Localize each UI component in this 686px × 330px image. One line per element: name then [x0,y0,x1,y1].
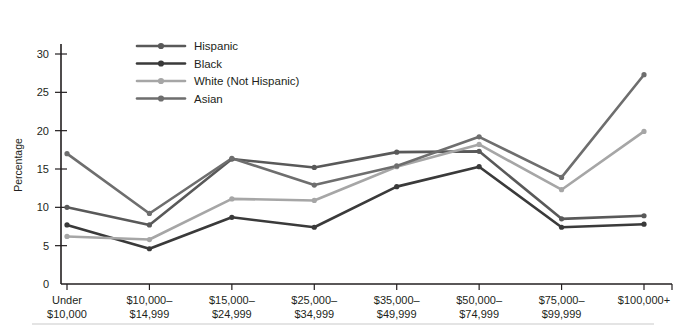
x-category-label: $10,000 [47,308,87,320]
y-tick-label: 10 [37,201,49,213]
data-point [147,237,152,242]
data-point [559,216,564,221]
legend-label: Black [194,58,222,70]
data-point [64,151,69,156]
line-chart: 051015202530 Percentage Under$10,000$10,… [0,0,686,330]
y-axis-title: Percentage [12,138,24,192]
x-axis-group: Under$10,000$10,000–$14,999$15,000–$24,9… [47,284,672,320]
y-axis-tick-labels: 051015202530 [37,48,49,290]
data-point [147,246,152,251]
x-category-label: $34,999 [294,308,334,320]
data-point [229,156,234,161]
legend-item-hispanic: Hispanic [137,40,238,52]
y-tick-label: 0 [43,278,49,290]
data-point [559,187,564,192]
data-point [641,129,646,134]
data-point [641,72,646,77]
data-point [394,163,399,168]
x-axis-category-labels: Under$10,000$10,000–$14,999$15,000–$24,9… [47,294,670,320]
legend-item-asian: Asian [137,93,223,105]
x-axis-ticks [67,284,672,290]
data-point [147,222,152,227]
data-point [559,175,564,180]
y-tick-label: 30 [37,48,49,60]
legend-item-white-not-hispanic: White (Not Hispanic) [137,75,300,87]
x-category-label: $14,999 [130,308,170,320]
data-point [477,164,482,169]
legend-swatch-marker [158,60,164,66]
data-point [64,205,69,210]
legend-swatch-marker [158,95,164,101]
y-axis-group: 051015202530 Percentage [12,44,67,290]
x-category-label: Under [52,294,82,306]
data-point [477,149,482,154]
x-category-label: $15,000– [209,294,256,306]
y-tick-label: 25 [37,86,49,98]
x-category-label: $35,000– [374,294,421,306]
legend-item-black: Black [137,58,222,70]
y-tick-label: 15 [37,163,49,175]
x-category-label: $100,000+ [618,294,670,306]
legend-label: Asian [194,93,223,105]
series-line-asian [67,75,644,214]
data-point [477,142,482,147]
x-category-label: $24,999 [212,308,252,320]
series-lines-group [67,75,644,249]
legend-swatch-marker [158,43,164,49]
data-point [641,222,646,227]
data-point [312,183,317,188]
data-point [147,211,152,216]
data-point [229,196,234,201]
legend: HispanicBlackWhite (Not Hispanic)Asian [137,40,300,105]
data-point [559,225,564,230]
x-category-label: $99,999 [542,308,582,320]
y-tick-label: 5 [43,240,49,252]
legend-swatch-marker [158,78,164,84]
data-point [312,165,317,170]
x-category-label: $10,000– [126,294,173,306]
data-point [229,215,234,220]
legend-label: White (Not Hispanic) [194,75,300,87]
x-category-label: $50,000– [456,294,503,306]
data-point [394,184,399,189]
x-category-label: $74,999 [459,308,499,320]
x-category-label: $75,000– [539,294,586,306]
data-point [394,150,399,155]
x-category-label: $25,000– [291,294,338,306]
y-tick-label: 20 [37,125,49,137]
data-point [64,234,69,239]
data-point [312,225,317,230]
data-point [641,213,646,218]
data-point [312,198,317,203]
data-point [477,134,482,139]
data-point [64,222,69,227]
legend-label: Hispanic [194,40,238,52]
chart-canvas: 051015202530 Percentage Under$10,000$10,… [0,0,686,330]
x-category-label: $49,999 [377,308,417,320]
